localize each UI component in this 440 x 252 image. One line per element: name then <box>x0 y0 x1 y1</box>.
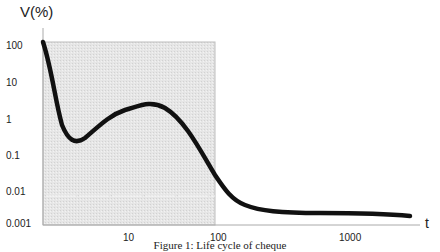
figure-caption: Figure 1: Life cycle of cheque <box>0 239 440 251</box>
chart-plot <box>0 0 440 252</box>
